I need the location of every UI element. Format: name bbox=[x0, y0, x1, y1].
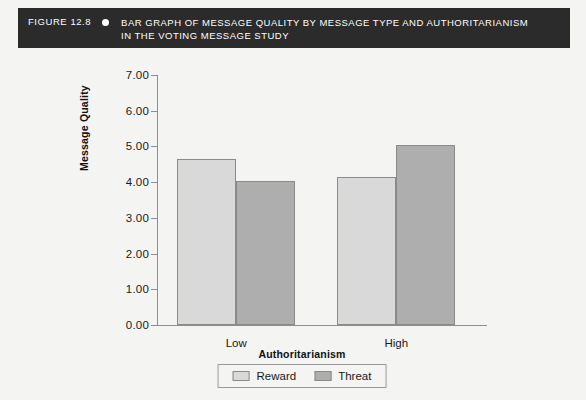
y-axis-tick-labels: 0.001.002.003.004.005.006.007.00 bbox=[97, 75, 149, 326]
y-axis-tick bbox=[151, 75, 157, 76]
y-axis-tick bbox=[151, 325, 157, 326]
bar-high-reward bbox=[337, 177, 396, 325]
bar-high-threat bbox=[396, 145, 455, 325]
y-axis-tick bbox=[151, 146, 157, 147]
bar-low-threat bbox=[236, 181, 295, 325]
y-axis-tick-label: 0.00 bbox=[126, 319, 149, 331]
legend-swatch-icon bbox=[314, 371, 331, 381]
y-axis-tick bbox=[151, 254, 157, 255]
chart-legend: RewardThreat bbox=[218, 364, 387, 388]
y-axis-tick-label: 3.00 bbox=[126, 212, 149, 224]
chart-container: Message Quality 0.001.002.003.004.005.00… bbox=[0, 52, 586, 400]
x-axis-title-host: Authoritarianism bbox=[0, 344, 586, 362]
y-axis-line bbox=[157, 75, 158, 326]
legend-swatch-icon bbox=[233, 371, 250, 381]
figure-caption-text: BAR GRAPH OF MESSAGE QUALITY BY MESSAGE … bbox=[121, 16, 528, 42]
y-axis-tick bbox=[151, 218, 157, 219]
bullet-dot-icon bbox=[102, 19, 109, 26]
y-axis-tick-label: 5.00 bbox=[126, 140, 149, 152]
y-axis-tick-label: 4.00 bbox=[126, 176, 149, 188]
y-axis-tick bbox=[151, 182, 157, 183]
legend-item-reward: Reward bbox=[233, 370, 297, 382]
x-axis-title: Authoritarianism bbox=[258, 348, 345, 360]
y-axis-tick bbox=[151, 111, 157, 112]
legend-label: Threat bbox=[338, 370, 371, 382]
y-axis-tick-label: 7.00 bbox=[126, 69, 149, 81]
figure-caption-bar: FIGURE 12.8 BAR GRAPH OF MESSAGE QUALITY… bbox=[18, 8, 570, 48]
plot-area: LowHigh bbox=[157, 75, 487, 325]
figure-number: FIGURE 12.8 bbox=[18, 16, 91, 28]
y-axis-tick-label: 1.00 bbox=[126, 283, 149, 295]
y-axis-title: Message Quality bbox=[78, 85, 90, 171]
y-axis-tick bbox=[151, 289, 157, 290]
figure-caption-line-2: IN THE VOTING MESSAGE STUDY bbox=[121, 29, 528, 42]
figure-caption-line-1: BAR GRAPH OF MESSAGE QUALITY BY MESSAGE … bbox=[121, 17, 528, 28]
y-axis-title-host: Message Quality bbox=[84, 75, 98, 326]
y-axis-tick-label: 6.00 bbox=[126, 105, 149, 117]
legend-item-threat: Threat bbox=[314, 370, 371, 382]
bar-low-reward bbox=[177, 159, 236, 325]
legend-label: Reward bbox=[257, 370, 297, 382]
x-axis-line bbox=[157, 325, 487, 326]
y-axis-tick-label: 2.00 bbox=[126, 248, 149, 260]
